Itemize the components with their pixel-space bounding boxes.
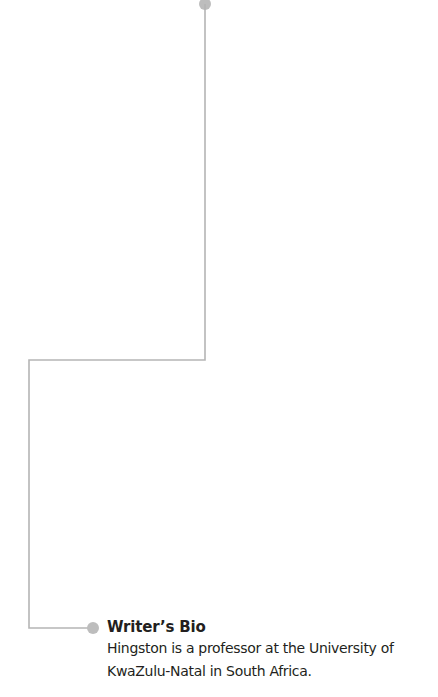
bio-text-line-2: KwaZulu-Natal in South Africa. [107, 660, 437, 683]
bio-dot-icon [87, 622, 99, 634]
connector-line [0, 0, 438, 697]
bio-text-line-1: Hingston is a professor at the Universit… [107, 637, 437, 660]
connector-path [29, 4, 205, 628]
bio-title: Writer’s Bio [107, 617, 437, 637]
writer-bio: Writer’s Bio Hingston is a professor at … [107, 617, 437, 683]
